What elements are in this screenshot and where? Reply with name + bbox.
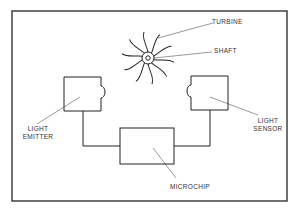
light-emitter-label: LIGHT EMITTER xyxy=(18,125,58,141)
microchip-icon xyxy=(120,128,174,164)
shaft-label: SHAFT xyxy=(214,47,237,55)
light-emitter-label-line2: EMITTER xyxy=(18,133,58,141)
turbine-label: TURBINE xyxy=(212,18,243,26)
turbine-hub xyxy=(142,52,154,64)
light-sensor-label-line1: LIGHT xyxy=(250,117,286,125)
microchip-label: MICROCHIP xyxy=(170,183,210,191)
turbine-icon xyxy=(122,32,174,84)
light-emitter-label-line1: LIGHT xyxy=(18,125,58,133)
light-sensor-label-line2: SENSOR xyxy=(250,125,286,133)
turbine-leader xyxy=(158,23,213,38)
diagram-canvas xyxy=(0,0,300,210)
diagram-frame xyxy=(12,11,287,201)
shaft-leader xyxy=(154,52,212,58)
light-sensor-icon xyxy=(187,76,228,110)
sensor-wire xyxy=(174,110,210,146)
sensor-leader xyxy=(210,97,258,115)
emitter-wire xyxy=(83,111,120,146)
shaft-icon xyxy=(146,56,150,60)
microchip-leader xyxy=(153,148,176,178)
light-emitter-icon xyxy=(64,77,105,111)
light-sensor-label: LIGHT SENSOR xyxy=(250,117,286,133)
